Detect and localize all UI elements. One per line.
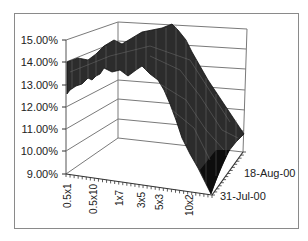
x-tick-label: 0.5x10 bbox=[88, 184, 99, 214]
x-tick-label: 3x5 bbox=[136, 192, 147, 208]
y-tick-label: 12.00% bbox=[4, 101, 58, 113]
depth-tick-label: 31-Jul-00 bbox=[220, 190, 266, 202]
x-tick-label: 5x3 bbox=[154, 194, 165, 210]
x-tick-label: 0.5x1 bbox=[62, 184, 73, 208]
surface-mesh bbox=[67, 24, 244, 194]
y-tick-label: 13.00% bbox=[4, 79, 58, 91]
y-axis-ticks bbox=[62, 40, 66, 174]
x-tick-label: 1x7 bbox=[114, 190, 125, 206]
depth-tick-label: 18-Aug-00 bbox=[244, 167, 295, 179]
x-tick-label: 10x2 bbox=[184, 194, 195, 216]
y-tick-label: 11.00% bbox=[4, 123, 58, 135]
y-tick-label: 15.00% bbox=[4, 34, 58, 46]
y-tick-label: 9.00% bbox=[4, 168, 58, 180]
y-tick-label: 10.00% bbox=[4, 145, 58, 157]
y-tick-label: 14.00% bbox=[4, 56, 58, 68]
